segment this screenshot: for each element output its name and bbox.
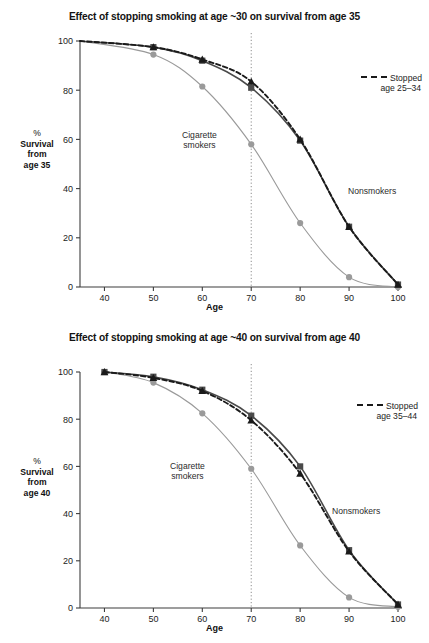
legend-bottom: Stopped age 35–44 xyxy=(290,401,418,422)
data-point-marker-circle xyxy=(297,220,303,226)
data-point-marker-circle xyxy=(346,594,352,600)
annotation-line-1: smokers xyxy=(170,471,205,481)
data-point-marker-square xyxy=(248,85,254,91)
y-axis-label-top: % Survival from age 35 xyxy=(4,128,70,170)
y-axis-tick-label: 20 xyxy=(63,556,73,566)
data-point-marker-circle xyxy=(297,542,303,548)
y-axis-tick-label: 80 xyxy=(63,415,73,425)
y-axis-tick-label: 0 xyxy=(68,603,73,613)
legend-label-line-0: Stopped xyxy=(390,73,422,83)
legend-label-line-1: age 25–34 xyxy=(300,83,422,93)
data-point-marker-circle xyxy=(199,83,205,89)
x-axis-label-bottom: Age xyxy=(0,623,429,633)
annotation-cigarette-smokers-top: Cigarette smokers xyxy=(182,130,217,150)
y-axis-tick-label: 100 xyxy=(58,367,73,377)
y-axis-tick-label: 80 xyxy=(63,86,73,96)
legend-label-line-0: Stopped xyxy=(386,401,418,411)
y-axis-label-line-3: age 40 xyxy=(4,488,70,499)
data-point-marker-triangle xyxy=(247,78,255,85)
y-axis-label-line-1: Survival xyxy=(4,467,70,478)
legend-label-line-1: age 35–44 xyxy=(290,411,418,421)
legend-entry-stopped: Stopped xyxy=(290,401,418,411)
annotation-nonsmokers-bottom: Nonsmokers xyxy=(332,506,380,516)
x-axis-label-top: Age xyxy=(0,302,429,312)
data-point-marker-circle xyxy=(346,274,352,280)
data-point-marker-circle xyxy=(248,466,254,472)
dashed-line-icon xyxy=(361,76,387,78)
annotation-nonsmokers-top: Nonsmokers xyxy=(348,186,396,196)
y-axis-tick-label: 40 xyxy=(63,184,73,194)
y-axis-label-line-3: age 35 xyxy=(4,160,70,171)
chart-panel-bottom: Effect of stopping smoking at age ~40 on… xyxy=(0,321,429,642)
y-axis-tick-label: 100 xyxy=(58,36,73,46)
y-axis-tick-label: 0 xyxy=(68,282,73,292)
annotation-line-0: Cigarette xyxy=(182,130,217,140)
y-axis-label-bottom: % Survival from age 40 xyxy=(4,456,70,498)
legend-entry-stopped: Stopped xyxy=(300,73,422,83)
chart-panel-top: Effect of stopping smoking at age ~30 on… xyxy=(0,0,429,321)
y-axis-label-line-2: from xyxy=(4,149,70,160)
y-axis-label-line-0: % xyxy=(4,456,70,467)
annotation-line-1: smokers xyxy=(182,140,217,150)
data-point-marker-circle xyxy=(248,141,254,147)
legend-top: Stopped age 25–34 xyxy=(300,73,422,94)
y-axis-label-line-2: from xyxy=(4,477,70,488)
y-axis-label-line-1: Survival xyxy=(4,139,70,150)
data-point-marker-circle xyxy=(150,51,156,57)
annotation-cigarette-smokers-bottom: Cigarette smokers xyxy=(170,461,205,481)
y-axis-tick-label: 40 xyxy=(63,509,73,519)
dashed-line-icon xyxy=(357,404,383,406)
y-axis-tick-label: 20 xyxy=(63,233,73,243)
annotation-line-0: Cigarette xyxy=(170,461,205,471)
y-axis-label-line-0: % xyxy=(4,128,70,139)
data-point-marker-square xyxy=(297,463,303,469)
figure-page: Effect of stopping smoking at age ~30 on… xyxy=(0,0,429,643)
data-point-marker-circle xyxy=(199,410,205,416)
